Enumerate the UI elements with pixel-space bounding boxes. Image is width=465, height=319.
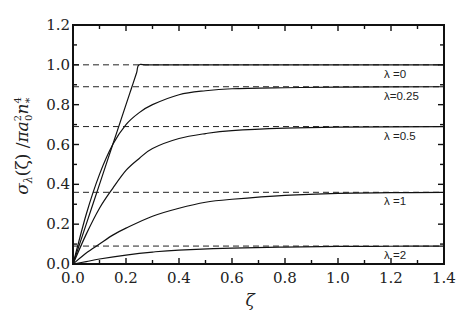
x-tick-labels: 0.00.20.40.60.81.01.21.4 [61,269,456,287]
curve-label: λ =2 [384,249,406,261]
x-tick-label: 1.4 [432,269,456,287]
chart: 0.00.20.40.60.81.01.21.4 0.00.20.40.60.8… [0,0,465,319]
x-tick-label: 0.2 [114,269,138,287]
curve-label: λ =1 [384,195,406,207]
y-label-sub-lambda: λ [22,176,35,184]
y-label-pi-a: πa [12,121,32,143]
axis-ticks [73,25,444,264]
y-label-n: n [12,104,32,115]
y-tick-label: 1.2 [46,16,70,34]
y-label-arg: (ζ) [12,154,32,176]
curve-label: λ=0.25 [384,90,419,102]
y-label-sup-4: 4 [12,97,23,103]
x-tick-label: 0.8 [273,269,297,287]
curve-label: λ =0 [384,68,406,80]
y-tick-label: 0.6 [46,136,70,154]
y-label-sub-star: * [23,97,36,103]
y-tick-label: 0.2 [46,215,70,233]
y-tick-label: 0.8 [46,96,70,114]
series-line [73,87,444,264]
y-label-sup-2: 2 [12,115,23,121]
y-tick-label: 0.0 [46,255,70,273]
x-axis-label: ζ [245,290,256,310]
curve-label: λ =0.5 [384,130,416,142]
x-tick-label: 0.4 [167,269,191,287]
y-axis-label: σλ(ζ) /πa20n4* [12,97,36,195]
plot-frame [73,25,444,264]
x-tick-label: 1.0 [326,269,350,287]
x-tick-label: 1.2 [379,269,403,287]
x-tick-label: 0.6 [220,269,244,287]
y-label-slash: / [12,142,32,153]
y-tick-label: 0.4 [46,175,70,193]
y-tick-labels: 0.00.20.40.60.81.01.2 [46,16,70,273]
y-tick-label: 1.0 [46,56,70,74]
curve-labels: λ =0λ=0.25λ =0.5λ =1λ =2 [384,68,419,261]
y-label-sigma: σ [12,183,32,195]
